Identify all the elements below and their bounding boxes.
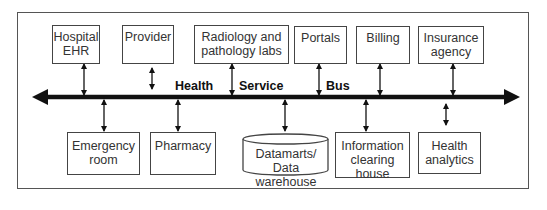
node-label-line: Hospital: [53, 30, 99, 44]
node-pharmacy: Pharmacy: [150, 132, 216, 175]
node-label-line: Datamarts/: [243, 147, 329, 161]
node-label-line: Provider: [123, 30, 173, 44]
node-label-line: Information: [336, 139, 409, 153]
node-label-line: Radiology and: [195, 30, 288, 44]
node-label-line: agency: [419, 45, 483, 59]
bus-label-service: Service: [239, 79, 283, 93]
node-emergency-room: Emergency room: [67, 132, 140, 175]
node-information-clearing-house: Information clearing house: [335, 132, 410, 178]
node-hospital-ehr: Hospital EHR: [52, 25, 100, 64]
node-label-line: pathology labs: [195, 44, 288, 58]
node-health-analytics: Health analytics: [418, 132, 481, 174]
node-label-line: Emergency: [68, 139, 139, 153]
node-label-line: EHR: [53, 44, 99, 58]
node-datamarts-data-warehouse: Datamarts/ Data warehouse: [243, 147, 329, 189]
node-label-line: clearing: [336, 153, 409, 167]
bus-label-health: Health: [175, 79, 213, 93]
node-label-line: Health: [419, 139, 480, 153]
bus-arrow-left-icon: [32, 89, 48, 105]
node-label-line: analytics: [419, 153, 480, 167]
node-portals: Portals: [294, 26, 347, 64]
node-billing: Billing: [356, 26, 410, 64]
node-insurance-agency: Insurance agency: [418, 26, 484, 64]
node-label-line: Pharmacy: [151, 139, 215, 153]
node-radiology-pathology-labs: Radiology and pathology labs: [194, 25, 289, 64]
bus-arrow-right-icon: [504, 89, 520, 105]
bus-label-bus: Bus: [326, 79, 350, 93]
node-label-line: room: [68, 153, 139, 167]
node-provider: Provider: [122, 25, 174, 64]
node-label-line: Insurance: [419, 31, 483, 45]
node-label-line: Portals: [295, 31, 346, 45]
node-label-line: Billing: [357, 31, 409, 45]
node-label-line: house: [336, 167, 409, 181]
node-label-line: Data warehouse: [243, 161, 329, 189]
